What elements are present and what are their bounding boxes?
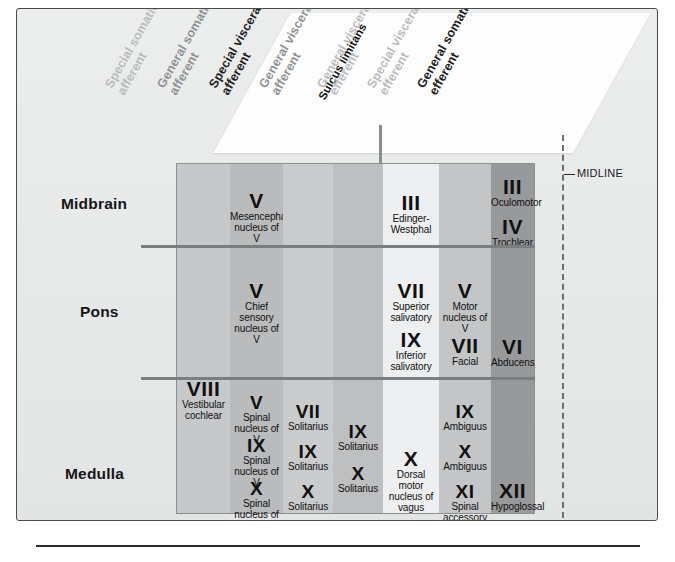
numeral: V (439, 280, 491, 301)
cell-sva-ix-solitarius: IX Solitarius (283, 442, 333, 472)
nucleus-name: Solitarius (283, 501, 333, 512)
basal-plate-label: Basal plate (407, 518, 491, 521)
numeral: V (230, 190, 283, 211)
column-ssa: VIII Vestibular cochlear (177, 164, 230, 513)
numeral: VII (383, 280, 439, 301)
numeral: X (283, 482, 333, 501)
numeral: IX (439, 402, 491, 421)
cell-gve-iii-edinger-westphal: III Edinger-Westphal (383, 192, 439, 235)
row-divider-midbrain-pons (141, 245, 535, 248)
cell-sve-v-motor: V Motor nucleus of V (439, 280, 491, 334)
cell-sve-x-ambiguus: X Ambiguus (439, 442, 491, 472)
nucleus-name: Solitarius (283, 421, 333, 432)
numeral: IX (333, 422, 383, 441)
nucleus-name: Superior salivatory (383, 301, 439, 323)
nucleus-name: Chief sensory nucleus of V (230, 301, 283, 345)
midline-label: MIDLINE (577, 167, 623, 179)
cell-sva-vii-solitarius: VII Solitarius (283, 402, 333, 432)
numeral: X (383, 448, 439, 469)
numeral: VIII (177, 378, 230, 399)
cell-gva-ix-solitarius: IX Solitarius (333, 422, 383, 452)
sulcus-limitans-line (379, 125, 382, 165)
numeral: VI (491, 336, 534, 357)
cell-gse-vi-abducens: VI Abducens (491, 336, 534, 368)
row-label-midbrain: Midbrain (61, 195, 127, 213)
cell-gve-x-dorsal-motor-vagus: X Dorsal motor nucleus of vagus (383, 448, 439, 513)
numeral: III (383, 192, 439, 213)
cell-gse-iv-trochlear: IV Trochlear (491, 216, 534, 248)
numeral: VII (439, 335, 491, 356)
nucleus-name: Edinger-Westphal (383, 213, 439, 235)
nucleus-name: Mesencephalic nucleus of V (230, 211, 283, 244)
nucleus-name: Ambiguus (439, 421, 491, 432)
cell-gve-vii-superior-salivatory: VII Superior salivatory (383, 280, 439, 323)
numeral: X (439, 442, 491, 461)
nucleus-name: Abducens (491, 357, 534, 368)
cell-gsa-v-chief: V Chief sensory nucleus of V (230, 280, 283, 345)
nuclei-grid: VIII Vestibular cochlear V Mesencephalic… (176, 163, 535, 514)
row-divider-pons-medulla (141, 377, 535, 380)
column-gve: III Edinger-Westphal VII Superior saliva… (383, 164, 439, 513)
row-label-pons: Pons (80, 303, 119, 321)
alar-plate-label: Alar plate (235, 518, 308, 521)
bottom-rule (36, 545, 640, 547)
nucleus-name: Dorsal motor nucleus of vagus (383, 469, 439, 513)
nucleus-name: Inferior salivatory (383, 350, 439, 372)
cell-sve-ix-ambiguus: IX Ambiguus (439, 402, 491, 432)
nucleus-name: Ambiguus (439, 461, 491, 472)
cell-sva-x-solitarius: X Solitarius (283, 482, 333, 512)
nucleus-name: Oculomotor (491, 197, 534, 208)
nucleus-name: Solitarius (333, 483, 383, 494)
column-gsa: V Mesencephalic nucleus of V V Chief sen… (230, 164, 283, 513)
nucleus-name: Motor nucleus of V (439, 301, 491, 334)
nucleus-name: Facial (439, 356, 491, 367)
numeral: IX (383, 329, 439, 350)
column-sve: V Motor nucleus of V VII Facial IX Ambig… (439, 164, 491, 513)
column-sva: VII Solitarius IX Solitarius X Solitariu… (283, 164, 333, 513)
cell-gve-ix-inferior-salivatory: IX Inferior salivatory (383, 329, 439, 372)
cell-gse-iii-oculomotor: III Oculomotor (491, 176, 534, 208)
column-gva: IX Solitarius X Solitarius (333, 164, 383, 513)
nucleus-name: Vestibular cochlear (177, 399, 230, 421)
numeral: VII (283, 402, 333, 421)
nucleus-name: Solitarius (333, 441, 383, 452)
cell-sve-xi-spinal-accessory: XI Spinal accessory (439, 482, 491, 521)
numeral: XI (439, 482, 491, 501)
numeral: X (333, 464, 383, 483)
column-gse: III Oculomotor IV Trochlear VI Abducens … (491, 164, 534, 513)
cell-gsa-x-spinal: X Spinal nucleus of V (230, 479, 283, 521)
cell-sve-vii-facial: VII Facial (439, 335, 491, 367)
cell-ssa-viii: VIII Vestibular cochlear (177, 378, 230, 421)
numeral: III (491, 176, 534, 197)
numeral: IX (283, 442, 333, 461)
numeral: IV (491, 216, 534, 237)
numeral: IX (230, 436, 283, 455)
nucleus-name: Solitarius (283, 461, 333, 472)
cell-gse-xii-hypoglossal: XII Hypoglossal (491, 480, 534, 512)
nucleus-name: Hypoglossal (491, 501, 534, 512)
numeral: V (230, 393, 283, 412)
cell-gsa-v-mesencephalic: V Mesencephalic nucleus of V (230, 190, 283, 244)
numeral: V (230, 280, 283, 301)
midline-dashed-line (562, 135, 564, 518)
numeral: X (230, 479, 283, 498)
cell-gva-x-solitarius: X Solitarius (333, 464, 383, 494)
cranial-nerve-nuclei-figure: Special somatic afferent General somatic… (16, 8, 658, 521)
midline-tick (564, 174, 575, 175)
row-label-medulla: Medulla (65, 465, 124, 483)
numeral: XII (491, 480, 534, 501)
